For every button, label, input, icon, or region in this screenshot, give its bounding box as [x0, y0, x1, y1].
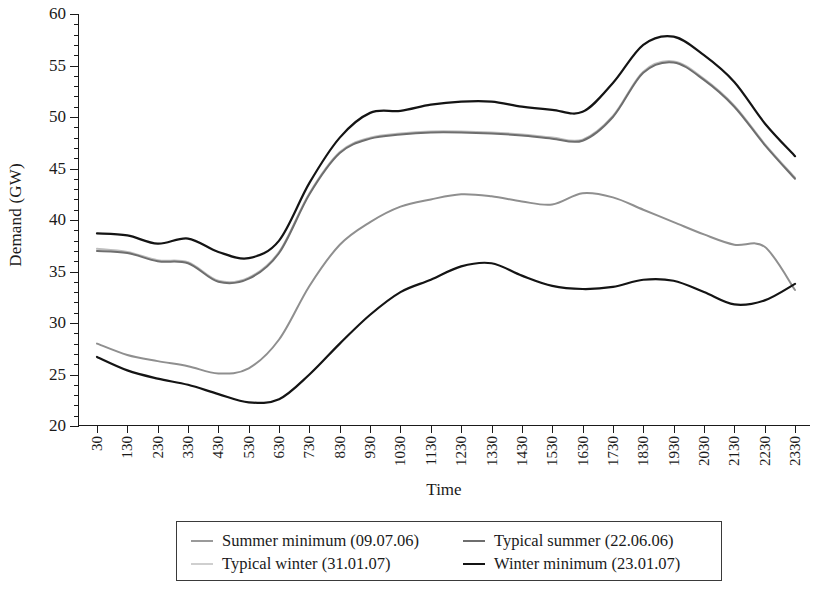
plot-area: 202530354045505560 301302303304305306307… — [78, 14, 810, 426]
y-axis-tick-label: 30 — [49, 313, 66, 333]
y-axis-minor-tick — [74, 45, 79, 46]
x-axis-tick — [370, 425, 371, 433]
x-axis-tick — [249, 425, 250, 433]
x-axis-tick-label: 1730 — [604, 436, 621, 466]
legend-entry[interactable]: Summer minimum (09.07.06) — [191, 531, 463, 551]
y-axis-minor-tick — [74, 416, 79, 417]
y-axis-major-tick — [70, 117, 79, 118]
y-axis-minor-tick — [74, 55, 79, 56]
x-axis-tick-label: 2030 — [695, 436, 712, 466]
series-line-summer-minimum — [97, 193, 795, 374]
y-axis-minor-tick — [74, 210, 79, 211]
x-axis-tick-label: 630 — [271, 436, 288, 459]
y-axis-minor-tick — [74, 395, 79, 396]
x-axis-tick — [97, 425, 98, 433]
y-axis-minor-tick — [74, 385, 79, 386]
y-axis-major-tick — [70, 66, 79, 67]
y-axis-minor-tick — [74, 96, 79, 97]
x-axis-tick-label: 1230 — [453, 436, 470, 466]
y-axis-tick-label: 50 — [49, 107, 66, 127]
x-axis-tick-label: 1930 — [665, 436, 682, 466]
y-axis-tick-label: 35 — [49, 262, 66, 282]
y-axis-minor-tick — [74, 148, 79, 149]
x-axis-title: Time — [78, 480, 810, 500]
x-axis-tick — [279, 425, 280, 433]
y-axis-tick-label: 40 — [49, 210, 66, 230]
x-axis-tick-label: 1130 — [422, 436, 439, 465]
y-axis-minor-tick — [74, 189, 79, 190]
x-axis-tick — [127, 425, 128, 433]
x-axis-tick-label: 230 — [149, 436, 166, 459]
y-axis-minor-tick — [74, 230, 79, 231]
x-axis-tick — [158, 425, 159, 433]
x-axis-tick-label: 30 — [89, 436, 106, 451]
y-axis-minor-tick — [74, 138, 79, 139]
y-axis-minor-tick — [74, 364, 79, 365]
x-axis-tick — [795, 425, 796, 433]
y-axis-minor-tick — [74, 158, 79, 159]
y-axis-major-tick — [70, 14, 79, 15]
y-axis-minor-tick — [74, 354, 79, 355]
x-axis-tick-label: 530 — [240, 436, 257, 459]
legend-line-swatch-icon — [191, 540, 213, 542]
series-line-winter-minimum — [97, 263, 795, 403]
x-axis-tick — [765, 425, 766, 433]
y-axis-minor-tick — [74, 333, 79, 334]
x-axis-tick — [492, 425, 493, 433]
y-axis-tick-label: 45 — [49, 159, 66, 179]
x-axis-tick — [340, 425, 341, 433]
x-axis-tick-label: 930 — [362, 436, 379, 459]
x-axis-tick — [309, 425, 310, 433]
y-axis-minor-tick — [74, 127, 79, 128]
y-axis-major-tick — [70, 272, 79, 273]
legend-entry[interactable]: Typical winter (31.01.07) — [191, 554, 463, 574]
legend-entry[interactable]: Typical summer (22.06.06) — [463, 531, 711, 551]
x-axis-tick-label: 2230 — [756, 436, 773, 466]
chart-legend: Summer minimum (09.07.06)Typical summer … — [176, 521, 722, 581]
legend-entry-label: Typical summer (22.06.06) — [494, 531, 673, 551]
y-axis-minor-tick — [74, 251, 79, 252]
x-axis-tick — [674, 425, 675, 433]
y-axis-major-tick — [70, 426, 79, 427]
y-axis-minor-tick — [74, 405, 79, 406]
legend-line-swatch-icon — [463, 540, 485, 542]
x-axis-tick-label: 830 — [331, 436, 348, 459]
x-axis-tick-label: 2330 — [787, 436, 804, 466]
y-axis-tick-label: 55 — [49, 56, 66, 76]
x-axis-tick — [522, 425, 523, 433]
x-axis-tick-label: 430 — [210, 436, 227, 459]
x-axis-tick — [552, 425, 553, 433]
y-axis-minor-tick — [74, 344, 79, 345]
y-axis-minor-tick — [74, 24, 79, 25]
series-line-typical-summer — [97, 62, 795, 283]
y-axis-minor-tick — [74, 179, 79, 180]
x-axis-tick-label: 1330 — [483, 436, 500, 466]
x-axis-tick — [188, 425, 189, 433]
x-axis-tick — [613, 425, 614, 433]
y-axis-major-tick — [70, 169, 79, 170]
y-axis-major-tick — [70, 375, 79, 376]
x-axis-tick — [218, 425, 219, 433]
x-axis-tick-label: 1030 — [392, 436, 409, 466]
x-axis-tick — [704, 425, 705, 433]
y-axis-minor-tick — [74, 313, 79, 314]
y-axis-minor-tick — [74, 261, 79, 262]
y-axis-title: Demand (GW) — [4, 0, 28, 430]
x-axis-tick — [431, 425, 432, 433]
demand-profile-chart: Demand (GW) 202530354045505560 301302303… — [0, 0, 826, 596]
x-axis-tick-label: 330 — [180, 436, 197, 459]
chart-curves — [79, 14, 811, 426]
legend-line-swatch-icon — [191, 563, 213, 565]
y-axis-major-tick — [70, 323, 79, 324]
y-axis-minor-tick — [74, 302, 79, 303]
y-axis-minor-tick — [74, 35, 79, 36]
legend-entry-label: Typical winter (31.01.07) — [222, 554, 390, 574]
y-axis-minor-tick — [74, 107, 79, 108]
x-axis-tick-label: 730 — [301, 436, 318, 459]
y-axis-major-tick — [70, 220, 79, 221]
x-axis-tick — [583, 425, 584, 433]
y-axis-minor-tick — [74, 199, 79, 200]
legend-entry[interactable]: Winter minimum (23.01.07) — [463, 554, 711, 574]
x-axis-tick — [643, 425, 644, 433]
legend-line-swatch-icon — [463, 563, 485, 565]
